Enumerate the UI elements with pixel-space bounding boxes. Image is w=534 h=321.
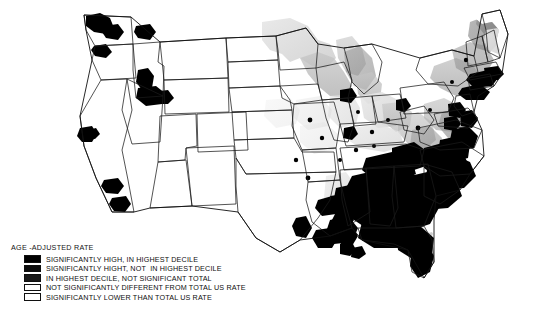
legend-item: NOT SIGNIFICANTLY DIFFERENT FROM TOTAL U…: [11, 283, 241, 292]
map-legend: AGE -ADJUSTED RATE SIGNIFICANTLY HIGH, I…: [11, 243, 241, 302]
legend-item-label: NOT SIGNIFICANTLY DIFFERENT FROM TOTAL U…: [46, 283, 246, 292]
legend-swatch-icon: [24, 293, 41, 300]
legend-item-label: SIGNIFICANTLY LOWER THAN TOTAL US RATE: [46, 293, 212, 302]
legend-item: IN HIGHEST DECILE, NOT SIGNIFICANT TOTAL: [11, 273, 241, 282]
legend-item-label: IN HIGHEST DECILE, NOT SIGNIFICANT TOTAL: [46, 274, 212, 283]
legend-item-label: SIGNIFICANTLY HIGH, IN HIGHEST DECILE: [46, 255, 198, 264]
legend-item: SIGNIFICANTLY HIGH, IN HIGHEST DECILE: [11, 255, 241, 264]
legend-item-label: SIGNIFICANTLY HIGHT, NOT IN HIGHEST DECI…: [46, 264, 222, 273]
legend-swatch-icon: [24, 265, 41, 272]
legend-swatch-icon: [24, 274, 41, 281]
screenshot-root: AGE -ADJUSTED RATE SIGNIFICANTLY HIGH, I…: [0, 0, 534, 321]
legend-item: SIGNIFICANTLY HIGHT, NOT IN HIGHEST DECI…: [11, 264, 241, 273]
legend-swatch-icon: [24, 255, 41, 262]
legend-swatch-icon: [24, 284, 41, 291]
legend-item: SIGNIFICANTLY LOWER THAN TOTAL US RATE: [11, 292, 241, 301]
legend-title: AGE -ADJUSTED RATE: [11, 243, 241, 252]
